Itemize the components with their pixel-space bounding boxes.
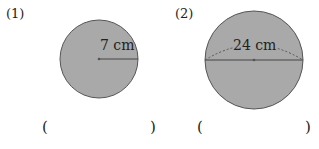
answer-2-open-paren: ( [197, 118, 203, 136]
diameter-label: 24 cm [233, 37, 276, 53]
answer-1-open-paren: ( [42, 118, 48, 136]
radius-label: 7 cm [100, 37, 134, 53]
answer-2-close-paren: ) [305, 118, 311, 136]
circle-2-figure [205, 11, 303, 109]
answer-1-close-paren: ) [150, 118, 156, 136]
circle-1-figure [60, 20, 138, 98]
